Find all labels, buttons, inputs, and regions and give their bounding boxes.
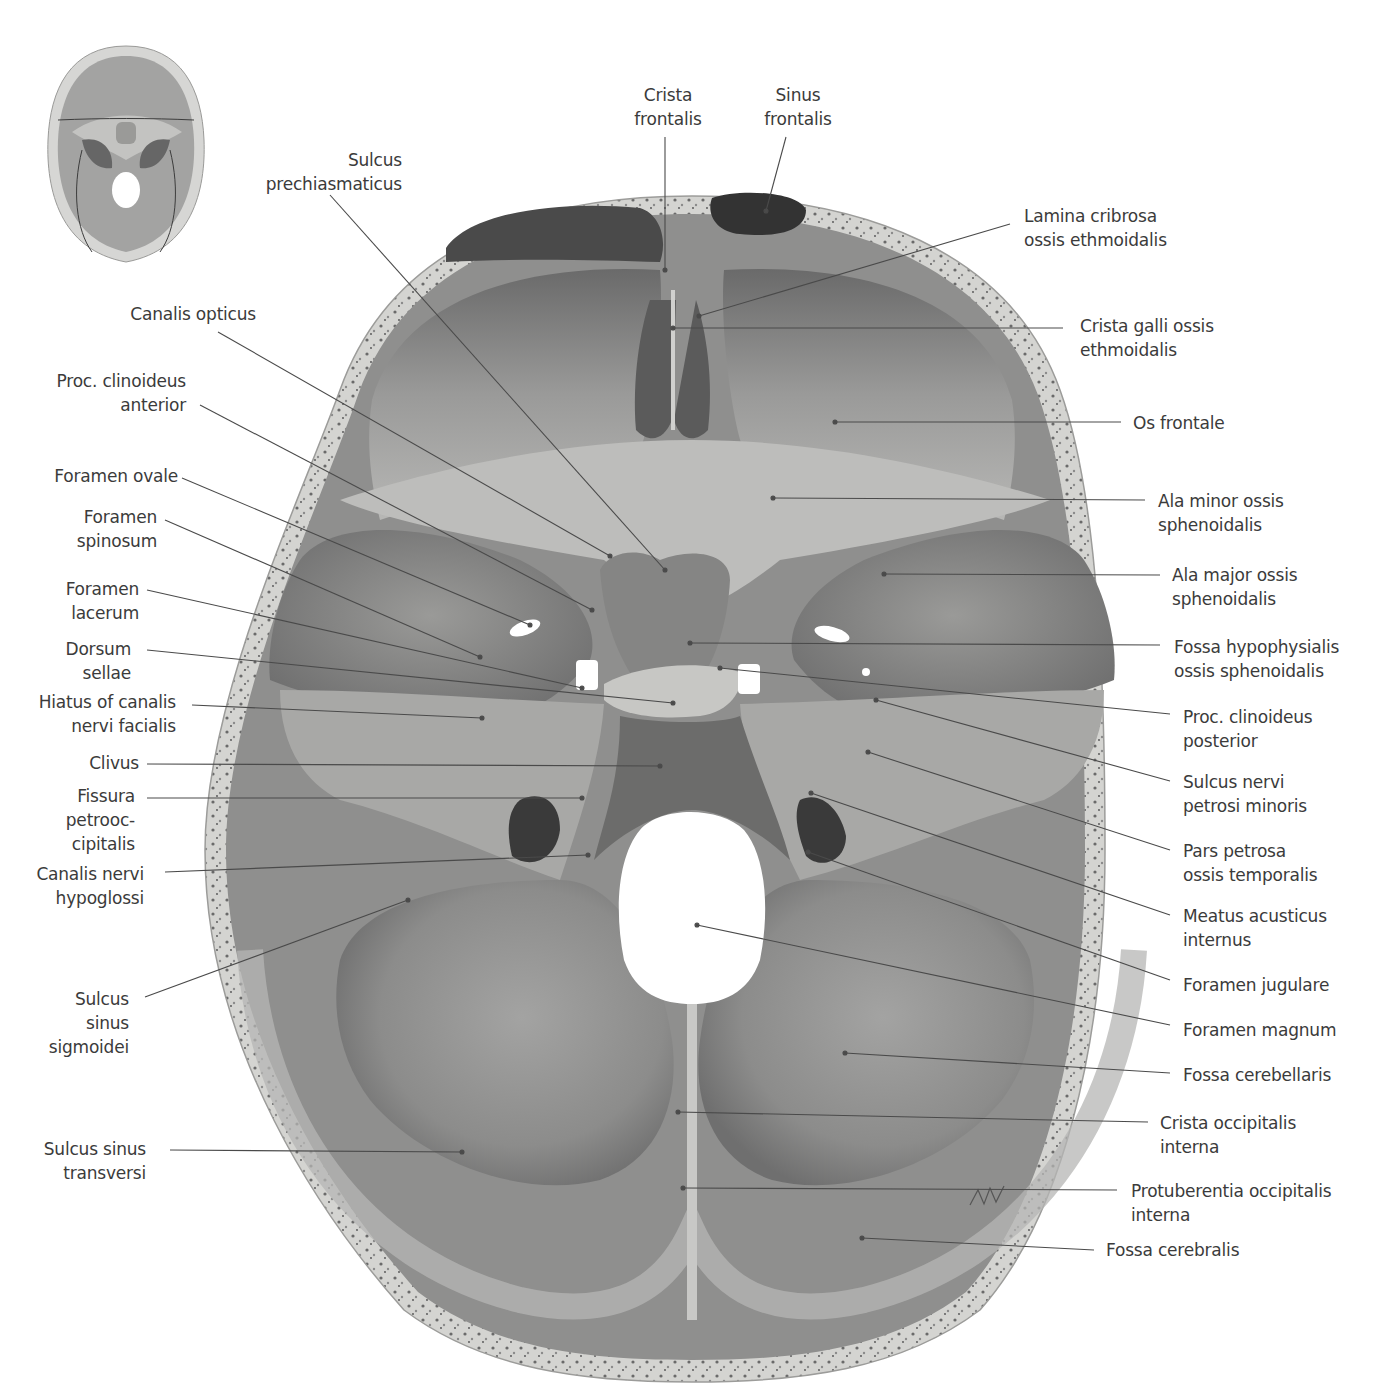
- leader-dot: [809, 791, 813, 795]
- label-sulcus-sinus-transversi: Sulcus sinustransversi: [44, 1137, 146, 1185]
- leader-dot: [874, 698, 878, 702]
- leader-dot: [718, 666, 722, 670]
- leader-dot: [697, 314, 701, 318]
- label-line: Protuberentia occipitalis: [1131, 1179, 1331, 1203]
- leader-dot: [478, 655, 482, 659]
- label-line: internus: [1183, 928, 1327, 952]
- label-clivus: Clivus: [89, 751, 139, 775]
- skull-base-diagram: SulcusprechiasmaticusCanalis opticusProc…: [0, 0, 1384, 1393]
- label-line: spinosum: [77, 529, 157, 553]
- leader-dot: [663, 268, 667, 272]
- leader-dot: [764, 209, 768, 213]
- label-fissura-petrooccipitalis: Fissurapetrooc-cipitalis: [66, 784, 135, 856]
- label-canalis-nervi-hypoglossi: Canalis nervihypoglossi: [36, 862, 144, 910]
- leader-dot: [580, 686, 584, 690]
- label-os-frontale: Os frontale: [1133, 411, 1224, 435]
- label-line: ossis sphenoidalis: [1174, 659, 1339, 683]
- label-canalis-opticus: Canalis opticus: [130, 302, 256, 326]
- leader-dot: [460, 1150, 464, 1154]
- label-line: frontalis: [738, 107, 858, 131]
- label-line: Crista: [608, 83, 728, 107]
- leader-dot: [580, 796, 584, 800]
- leader-dot: [676, 1110, 680, 1114]
- label-line: Dorsum: [66, 637, 131, 661]
- label-line: Fossa cerebralis: [1106, 1238, 1239, 1262]
- label-line: Pars petrosa: [1183, 839, 1318, 863]
- label-fossa-cerebellaris: Fossa cerebellaris: [1183, 1063, 1331, 1087]
- leader-dot: [681, 1186, 685, 1190]
- label-hiatus-canalis-nervi-facialis: Hiatus of canalisnervi facialis: [39, 690, 176, 738]
- label-foramen-ovale: Foramen ovale: [54, 464, 178, 488]
- leader-dot: [671, 326, 675, 330]
- label-line: cipitalis: [66, 832, 135, 856]
- label-line: Foramen ovale: [54, 464, 178, 488]
- label-line: Foramen: [77, 505, 157, 529]
- label-sinus-frontalis: Sinusfrontalis: [738, 83, 858, 131]
- label-line: Sulcus sinus: [44, 1137, 146, 1161]
- label-line: Canalis nervi: [36, 862, 144, 886]
- label-line: Crista galli ossis: [1080, 314, 1214, 338]
- label-line: Foramen magnum: [1183, 1018, 1336, 1042]
- label-line: transversi: [44, 1161, 146, 1185]
- leader-dot: [771, 496, 775, 500]
- label-line: sphenoidalis: [1158, 513, 1284, 537]
- label-foramen-jugulare: Foramen jugulare: [1183, 973, 1329, 997]
- label-line: Os frontale: [1133, 411, 1224, 435]
- label-line: Sulcus: [49, 987, 129, 1011]
- label-line: frontalis: [608, 107, 728, 131]
- label-lamina-cribrosa: Lamina cribrosaossis ethmoidalis: [1024, 204, 1167, 252]
- label-line: lacerum: [66, 601, 139, 625]
- label-foramen-spinosum: Foramenspinosum: [77, 505, 157, 553]
- label-line: Ala minor ossis: [1158, 489, 1284, 513]
- leader-dot: [860, 1236, 864, 1240]
- label-protuberentia-occipitalis-interna: Protuberentia occipitalisinterna: [1131, 1179, 1331, 1227]
- frontal-sinus-right: [710, 193, 806, 235]
- foramen-lacerum-right: [738, 664, 760, 694]
- leader-dot: [406, 898, 410, 902]
- label-line: Canalis opticus: [130, 302, 256, 326]
- leader-dot: [480, 716, 484, 720]
- label-line: sinus: [49, 1011, 129, 1035]
- label-sulcus-sinus-sigmoidei: Sulcussinussigmoidei: [49, 987, 129, 1059]
- leader-dot: [833, 420, 837, 424]
- foramen-magnum: [619, 812, 765, 1004]
- label-line: Ala major ossis: [1172, 563, 1297, 587]
- label-sulcus-nervi-petrosi-minoris: Sulcus nervipetrosi minoris: [1183, 770, 1307, 818]
- label-line: Meatus acusticus: [1183, 904, 1327, 928]
- orientation-thumbnail: [48, 46, 204, 262]
- label-line: Proc. clinoideus: [57, 369, 187, 393]
- label-line: Proc. clinoideus: [1183, 705, 1313, 729]
- label-line: posterior: [1183, 729, 1313, 753]
- label-line: interna: [1160, 1135, 1296, 1159]
- label-ala-major: Ala major ossissphenoidalis: [1172, 563, 1297, 611]
- leader-dot: [695, 923, 699, 927]
- label-pars-petrosa: Pars petrosaossis temporalis: [1183, 839, 1318, 887]
- label-line: petrosi minoris: [1183, 794, 1307, 818]
- label-line: ossis ethmoidalis: [1024, 228, 1167, 252]
- label-line: ossis temporalis: [1183, 863, 1318, 887]
- label-line: Lamina cribrosa: [1024, 204, 1167, 228]
- label-ala-minor: Ala minor ossissphenoidalis: [1158, 489, 1284, 537]
- label-dorsum-sellae: Dorsumsellae: [66, 637, 131, 685]
- leader-dot: [590, 608, 594, 612]
- leader-dot: [608, 554, 612, 558]
- label-line: Hiatus of canalis: [39, 690, 176, 714]
- label-line: hypoglossi: [36, 886, 144, 910]
- label-line: ethmoidalis: [1080, 338, 1214, 362]
- label-line: nervi facialis: [39, 714, 176, 738]
- leader-dot: [806, 850, 810, 854]
- label-line: Sulcus nervi: [1183, 770, 1307, 794]
- leader-dot: [663, 568, 667, 572]
- label-line: Clivus: [89, 751, 139, 775]
- label-line: Fossa hypophysialis: [1174, 635, 1339, 659]
- label-line: Foramen jugulare: [1183, 973, 1329, 997]
- frontal-sinus-left: [446, 206, 663, 262]
- label-line: Sulcus: [266, 148, 402, 172]
- label-line: interna: [1131, 1203, 1331, 1227]
- leader-dot: [843, 1051, 847, 1055]
- leader-dot: [688, 641, 692, 645]
- label-line: Sinus: [738, 83, 858, 107]
- leader-dot: [586, 853, 590, 857]
- label-crista-frontalis: Cristafrontalis: [608, 83, 728, 131]
- label-foramen-lacerum: Foramenlacerum: [66, 577, 139, 625]
